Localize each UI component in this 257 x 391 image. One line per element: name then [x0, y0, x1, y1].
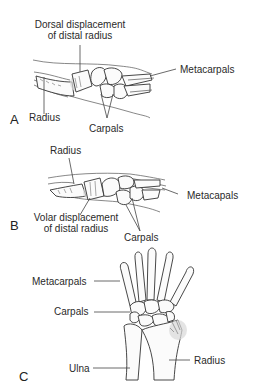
panel-a-metacarpals-label: Metacarpals	[180, 64, 234, 75]
panel-c-radius-label: Radius	[194, 355, 225, 366]
panel-a-drawing	[33, 45, 176, 118]
panel-b-letter: B	[10, 218, 19, 233]
panel-c-carpals-label: Carpals	[54, 306, 88, 317]
panel-c-metacarpals-label: Metacarpals	[32, 276, 86, 287]
panel-b-metacarpals-label: Metacapals	[187, 190, 238, 201]
panel-b-radius-label: Radius	[50, 145, 81, 156]
panel-a-dorsal-displacement-label: Dorsal displacement of distal radius	[30, 19, 130, 41]
panel-a-carpals-label: Carpals	[89, 123, 123, 134]
panel-a-letter: A	[10, 112, 19, 127]
panel-b-carpals-label: Carpals	[124, 232, 158, 243]
panel-c-drawing	[93, 248, 194, 380]
panel-c-letter: C	[19, 369, 28, 384]
panel-a-radius-label: Radius	[29, 112, 60, 123]
panel-b-volar-displacement-label: Volar displacement of distal radius	[28, 212, 124, 234]
panel-c-ulna-label: Ulna	[69, 363, 90, 374]
